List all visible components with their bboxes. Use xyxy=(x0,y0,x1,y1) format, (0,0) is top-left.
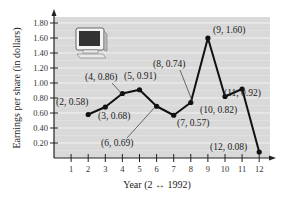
x-tick-label: 5 xyxy=(137,164,141,174)
y-axis-title: Earnings per share (in dollars) xyxy=(11,27,23,148)
y-tick-label: 1.20 xyxy=(33,63,48,73)
x-tick-label: 7 xyxy=(172,164,176,174)
point-label: (10, 0.82) xyxy=(200,105,237,116)
data-point xyxy=(154,104,159,109)
y-tick-label: 1.60 xyxy=(33,33,48,43)
y-tick-label: 0.20 xyxy=(33,138,48,148)
point-label: (7, 0.57) xyxy=(177,118,209,129)
point-label: (12, 0.08) xyxy=(210,142,247,153)
x-tick-label: 1 xyxy=(69,164,73,174)
y-tick-label: 0.60 xyxy=(33,108,48,118)
x-tick-label: 3 xyxy=(103,164,107,174)
x-tick-label: 11 xyxy=(238,164,246,174)
data-point xyxy=(120,91,125,96)
y-axis-ticks: 0.200.400.600.801.001.201.401.601.80 xyxy=(33,18,58,148)
point-label: (4, 0.86) xyxy=(85,72,117,83)
point-label: (5, 0.91) xyxy=(124,71,156,82)
x-tick-label: 4 xyxy=(120,164,125,174)
point-label: (6, 0.69) xyxy=(101,138,133,149)
data-point xyxy=(205,35,210,40)
point-label: (3, 0.68) xyxy=(98,111,130,122)
point-label: (9, 1.60) xyxy=(213,25,245,36)
y-tick-label: 1.40 xyxy=(33,48,48,58)
x-tick-label: 6 xyxy=(154,164,158,174)
x-axis-title: Year (2 ↔ 1992) xyxy=(123,179,191,191)
data-point xyxy=(103,104,108,109)
x-tick-label: 10 xyxy=(221,164,230,174)
x-tick-label: 12 xyxy=(255,164,264,174)
y-tick-label: 0.80 xyxy=(33,93,48,103)
x-tick-label: 8 xyxy=(189,164,193,174)
data-point xyxy=(257,149,262,154)
earnings-line-chart: 0.200.400.600.801.001.201.401.601.80 123… xyxy=(0,0,282,199)
point-label: (8, 0.74) xyxy=(153,59,185,70)
y-tick-label: 0.40 xyxy=(33,123,48,133)
x-tick-label: 2 xyxy=(86,164,90,174)
point-label: (11, 0.92) xyxy=(224,88,261,99)
data-point xyxy=(171,113,176,118)
point-label: (2, 0.58) xyxy=(56,97,88,108)
data-point xyxy=(137,87,142,92)
x-axis-arrow-icon xyxy=(269,156,276,161)
y-tick-label: 1.00 xyxy=(33,78,48,88)
data-point xyxy=(86,112,91,117)
x-tick-label: 9 xyxy=(206,164,210,174)
y-tick-label: 1.80 xyxy=(33,18,48,28)
y-axis-arrow-icon xyxy=(52,9,57,16)
